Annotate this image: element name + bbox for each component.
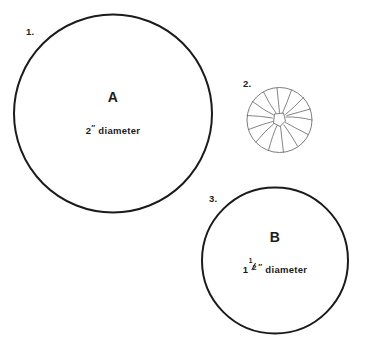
circle-a-hit-area[interactable]	[14, 15, 212, 213]
diagram-canvas: 1. A 2″ diameter 2. 3. B 112″ diameter	[0, 0, 369, 351]
figure-1-number-label: 1.	[26, 27, 34, 37]
circle-b-hit-area[interactable]	[202, 188, 348, 334]
gathered-circle-hit-area[interactable]	[247, 88, 312, 153]
figure-2-number-label: 2.	[243, 79, 251, 89]
figure-3-number-label: 3.	[209, 194, 217, 204]
